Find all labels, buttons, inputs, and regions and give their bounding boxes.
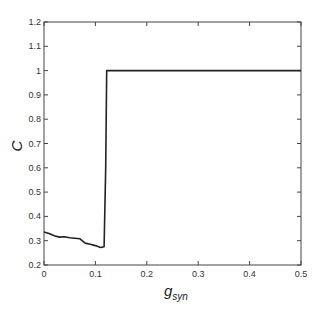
y-tick-label: 0.6	[28, 163, 41, 173]
y-axis-label: C	[8, 140, 25, 151]
y-tick-label: 1.2	[28, 17, 41, 27]
axis-ticks	[44, 22, 301, 265]
x-axis-label: gsyn	[164, 282, 188, 302]
x-tick-label: 0.5	[295, 269, 308, 279]
x-tick-label: 0	[41, 269, 46, 279]
plot-border	[44, 22, 301, 265]
y-tick-label: 0.9	[28, 90, 41, 100]
x-tick-label: 0.1	[89, 269, 102, 279]
y-tick-label: 0.8	[28, 114, 41, 124]
y-tick-label: 0.5	[28, 187, 41, 197]
x-tick-label: 0.2	[141, 269, 154, 279]
y-tick-label: 0.2	[28, 260, 41, 270]
x-axis-label-subscript: syn	[172, 291, 188, 302]
y-tick-label: 0.3	[28, 236, 41, 246]
y-tick-label: 1.1	[28, 41, 41, 51]
y-tick-label: 0.7	[28, 139, 41, 149]
data-series	[44, 71, 301, 248]
y-tick-label: 0.4	[28, 211, 41, 221]
line-chart: 00.10.20.30.40.50.20.30.40.50.60.70.80.9…	[0, 0, 323, 314]
plot-frame	[44, 22, 301, 265]
series-line	[44, 71, 301, 248]
x-tick-label: 0.3	[192, 269, 205, 279]
tick-labels: 00.10.20.30.40.50.20.30.40.50.60.70.80.9…	[28, 17, 307, 279]
y-tick-label: 1	[36, 66, 41, 76]
x-tick-label: 0.4	[243, 269, 256, 279]
